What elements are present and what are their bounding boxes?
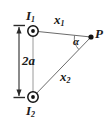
label-distance-x2: x2 [60, 70, 71, 83]
label-angle-alpha: α [73, 36, 79, 47]
current-wires-diagram: I1 I2 2a x1 x2 α P [0, 0, 111, 123]
wire-symbol-bottom [28, 92, 38, 102]
label-point-p: P [95, 27, 103, 40]
label-current-top: I1 [26, 9, 35, 22]
label-current-bottom: I2 [26, 104, 35, 117]
wire-center-dot-top [31, 29, 35, 33]
distance-x2-line [33, 37, 91, 97]
dimension-arrowhead-top [16, 27, 21, 34]
wire-center-dot-bottom [31, 95, 35, 99]
label-distance-x1: x1 [54, 13, 65, 26]
dimension-arrowhead-bottom [16, 90, 21, 97]
wire-symbol-top [28, 26, 38, 36]
distance-x1-line [33, 31, 91, 37]
label-separation: 2a [22, 54, 35, 67]
point-p-marker [88, 34, 93, 39]
